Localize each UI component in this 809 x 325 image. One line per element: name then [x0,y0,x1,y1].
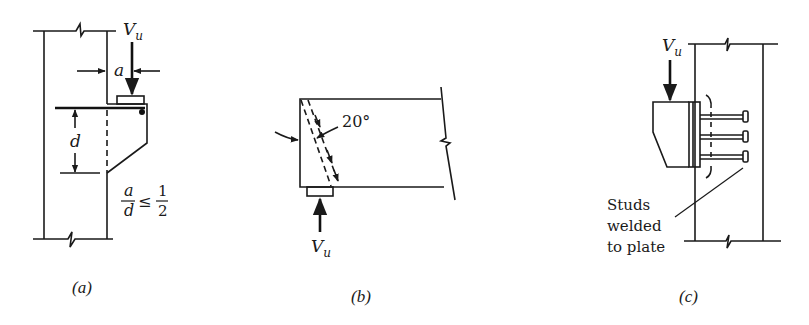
caption-c: (c) [679,287,698,306]
break-line-icon [33,232,113,247]
panel-b: 20° Vu (b) [275,87,455,306]
svg-text:≤: ≤ [138,192,151,211]
shear-arrow-icon [334,170,338,181]
note-line-1: Studs [607,196,650,214]
side-force-arrow-icon [275,132,298,140]
inclined-crack-line [301,100,331,186]
anchor-weld-icon [139,109,145,115]
studs [700,111,748,162]
bearing-plate [117,96,144,104]
panel-a: Vu a d a d ≤ 1 2 (a) [33,19,168,297]
column-c [684,38,781,248]
steel-bracket [653,102,689,167]
load-label-a: Vu [123,19,143,43]
figure-canvas: Vu a d a d ≤ 1 2 (a) [0,0,809,325]
svg-text:a: a [124,181,134,200]
svg-text:2: 2 [158,202,168,220]
bearing-plate [307,187,333,196]
panel-c: Vu Studs welded to plate (c) [607,35,781,306]
confinement-bracket-icon [706,166,711,178]
depth-label: d [70,131,81,151]
caption-a: (a) [72,278,92,297]
caption-b: (b) [351,287,371,306]
ratio-expression: a d ≤ 1 2 [121,181,168,220]
load-label-c: Vu [662,35,682,59]
angle-label: 20° [342,112,370,131]
beam-outline [300,99,444,187]
shear-arrow-icon [327,150,332,163]
svg-text:1: 1 [158,182,168,200]
break-line-icon [441,87,455,200]
shear-span-label: a [114,60,124,80]
load-label-b: Vu [311,236,331,260]
svg-text:d: d [124,201,134,220]
break-line-icon [688,38,778,51]
break-line-icon [684,235,781,248]
note-line-3: to plate [607,238,665,256]
break-line-icon [33,24,116,36]
note-line-2: welded [607,217,662,235]
confinement-bracket-icon [706,95,711,108]
